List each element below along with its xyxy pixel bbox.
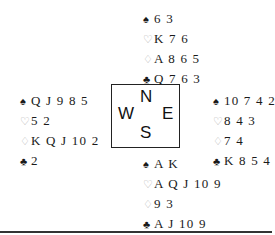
- west-hearts: ♡5 2: [20, 111, 99, 131]
- heart-icon: ♡: [20, 112, 31, 131]
- spade-icon: ♠: [143, 155, 154, 174]
- heart-icon: ♡: [143, 30, 154, 49]
- spade-icon: ♠: [143, 10, 154, 29]
- compass-west: W: [118, 104, 134, 124]
- east-spades: ♠10 7 4 2: [213, 91, 275, 111]
- compass-north: N: [140, 87, 152, 107]
- south-spades: ♠A K: [143, 154, 222, 174]
- compass-east: E: [162, 104, 173, 124]
- north-spades: ♠6 3: [143, 9, 201, 29]
- east-hand: ♠10 7 4 2 ♡8 4 3 ♢7 4 ♣K 8 5 4: [213, 91, 275, 171]
- heart-icon: ♡: [213, 112, 224, 131]
- compass-south: S: [140, 123, 151, 143]
- compass-box: N W E S: [111, 84, 180, 148]
- diamond-icon: ♢: [213, 132, 224, 151]
- north-diamonds: ♢A 8 6 5: [143, 49, 201, 69]
- north-hand: ♠6 3 ♡K 7 6 ♢A 8 6 5 ♣Q 7 6 3: [143, 9, 201, 89]
- west-diamonds: ♢K Q J 10 2: [20, 131, 99, 151]
- spade-icon: ♠: [20, 92, 31, 111]
- east-clubs: ♣K 8 5 4: [213, 151, 275, 171]
- diamond-icon: ♢: [20, 132, 31, 151]
- diamond-icon: ♢: [143, 195, 154, 214]
- spade-icon: ♠: [213, 92, 224, 111]
- east-hearts: ♡8 4 3: [213, 111, 275, 131]
- diamond-icon: ♢: [143, 50, 154, 69]
- club-icon: ♣: [20, 152, 31, 171]
- south-hand: ♠A K ♡A Q J 10 9 ♢9 3 ♣A J 10 9: [143, 154, 222, 234]
- bottom-divider: [0, 231, 272, 233]
- east-diamonds: ♢7 4: [213, 131, 275, 151]
- south-diamonds: ♢9 3: [143, 194, 222, 214]
- north-hearts: ♡K 7 6: [143, 29, 201, 49]
- west-spades: ♠Q J 9 8 5: [20, 91, 99, 111]
- west-clubs: ♣2: [20, 151, 99, 171]
- west-hand: ♠Q J 9 8 5 ♡5 2 ♢K Q J 10 2 ♣2: [20, 91, 99, 171]
- south-hearts: ♡A Q J 10 9: [143, 174, 222, 194]
- heart-icon: ♡: [143, 175, 154, 194]
